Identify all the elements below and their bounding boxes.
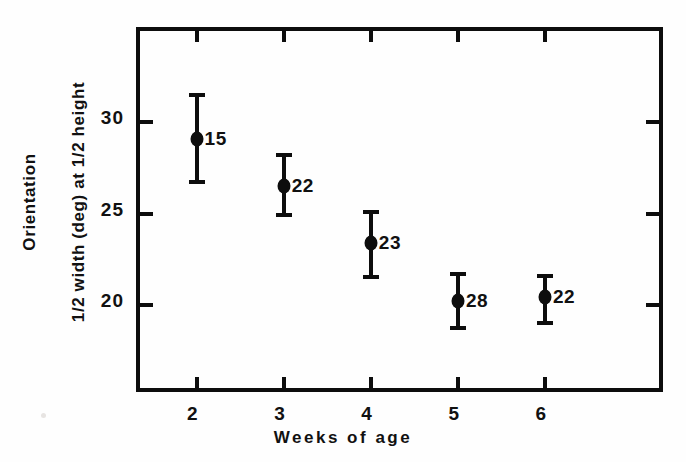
marker-filled-circle	[539, 290, 552, 305]
x-tick-label-5: 5	[448, 403, 459, 425]
point-sample-size-label: 23	[379, 232, 401, 254]
x-tick-bottom-2	[195, 377, 199, 388]
plot-area: 1522232822	[136, 27, 663, 392]
y-tick-left-30	[140, 120, 153, 124]
marker-filled-circle	[451, 294, 464, 309]
y-tick-right-20	[646, 303, 659, 307]
y-tick-label-20: 20	[58, 290, 124, 312]
y-tick-label-30: 30	[58, 107, 124, 129]
y-axis-title-primary: Orientation	[20, 117, 40, 287]
error-bar-cap-upper	[276, 153, 292, 157]
x-tick-top-6	[543, 31, 547, 42]
x-tick-label-2: 2	[187, 403, 198, 425]
scan-artifact-speck	[41, 413, 46, 418]
point-sample-size-label: 28	[466, 290, 488, 312]
y-tick-label-25: 25	[58, 199, 124, 221]
error-bar-cap-lower	[450, 326, 466, 330]
error-bar-cap-lower	[363, 275, 379, 279]
x-tick-top-4	[369, 31, 373, 42]
y-tick-right-30	[646, 120, 659, 124]
error-bar-cap-upper	[450, 272, 466, 276]
y-tick-left-25	[140, 212, 153, 216]
error-bar-cap-lower	[537, 321, 553, 325]
error-bar-cap-upper	[189, 93, 205, 97]
x-axis-title: Weeks of age	[0, 428, 686, 448]
figure-orientation-vs-weeks: Orientation 1/2 width (deg) at 1/2 heigh…	[0, 0, 686, 462]
x-tick-bottom-4	[369, 377, 373, 388]
x-tick-top-3	[282, 31, 286, 42]
y-tick-right-25	[646, 212, 659, 216]
x-tick-bottom-5	[456, 377, 460, 388]
marker-filled-circle	[364, 235, 377, 250]
point-sample-size-label: 15	[205, 128, 227, 150]
error-bar-cap-upper	[537, 274, 553, 278]
y-tick-left-20	[140, 303, 153, 307]
x-tick-top-2	[195, 31, 199, 42]
point-sample-size-label: 22	[292, 175, 314, 197]
x-tick-label-6: 6	[536, 403, 547, 425]
point-sample-size-label: 22	[553, 286, 575, 308]
x-tick-bottom-3	[282, 377, 286, 388]
error-bar-cap-upper	[363, 210, 379, 214]
x-tick-bottom-6	[543, 377, 547, 388]
x-tick-label-3: 3	[274, 403, 285, 425]
x-tick-top-5	[456, 31, 460, 42]
error-bar-cap-lower	[276, 213, 292, 217]
error-bar-cap-lower	[189, 180, 205, 184]
marker-filled-circle	[277, 179, 290, 194]
x-tick-label-4: 4	[361, 403, 372, 425]
marker-filled-circle	[190, 131, 203, 146]
